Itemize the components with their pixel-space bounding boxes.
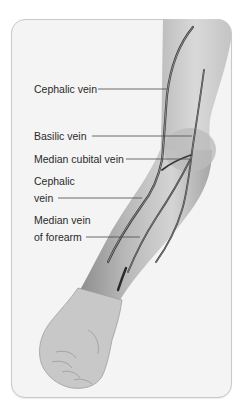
- label-median-vein-of-forearm: Median vein of forearm: [34, 212, 91, 246]
- label-text: Median cubital vein: [34, 153, 124, 165]
- label-cephalic-vein-lower: Cephalic vein: [34, 173, 75, 207]
- label-text-line-2: of forearm: [34, 229, 91, 246]
- label-basilic-vein: Basilic vein: [34, 128, 87, 145]
- label-text: Cephalic vein: [34, 83, 97, 95]
- label-text: Basilic vein: [34, 130, 87, 142]
- label-median-cubital-vein: Median cubital vein: [34, 151, 124, 168]
- label-text-line-1: Cephalic: [34, 173, 75, 190]
- label-cephalic-vein-upper: Cephalic vein: [34, 81, 97, 98]
- forearm-shape: [80, 150, 212, 300]
- hand-shape: [40, 288, 123, 388]
- label-text-line-1: Median vein: [34, 212, 91, 229]
- label-text-line-2: vein: [34, 190, 75, 207]
